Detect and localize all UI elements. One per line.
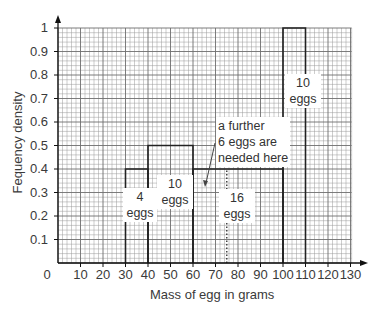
x-tick-label: 130 [336,267,366,282]
y-tick-label: 0.3 [18,185,48,200]
bin-label-100-110: 10 eggs [285,74,321,108]
y-tick-label: 0.9 [18,44,48,59]
annotation-note: a further 6 eggs are needed here [216,117,290,167]
bin-label-60-100: 16 eggs [219,189,255,223]
annotation-arrowhead-icon [203,180,208,187]
y-axis-arrow-icon [55,15,61,23]
y-tick-label: 1 [18,20,48,35]
y-tick-label: 0.8 [18,67,48,82]
bin-label-30-40: 4 eggs [123,188,157,222]
y-tick-label: 0.4 [18,161,48,176]
y-tick-label: 0.2 [18,208,48,223]
x-axis-arrow-icon [360,260,368,266]
y-tick-label: 0.7 [18,91,48,106]
annotation-arrow [206,143,215,183]
y-tick-label: 0.6 [18,114,48,129]
y-tick-label: 0.5 [18,138,48,153]
x-tick-label: 0 [32,267,62,282]
bin-label-40-60: 10 eggs [157,175,193,209]
x-axis-label: Mass of egg in grams [150,287,274,302]
y-tick-label: 0.1 [18,232,48,247]
grid-major [58,28,352,263]
